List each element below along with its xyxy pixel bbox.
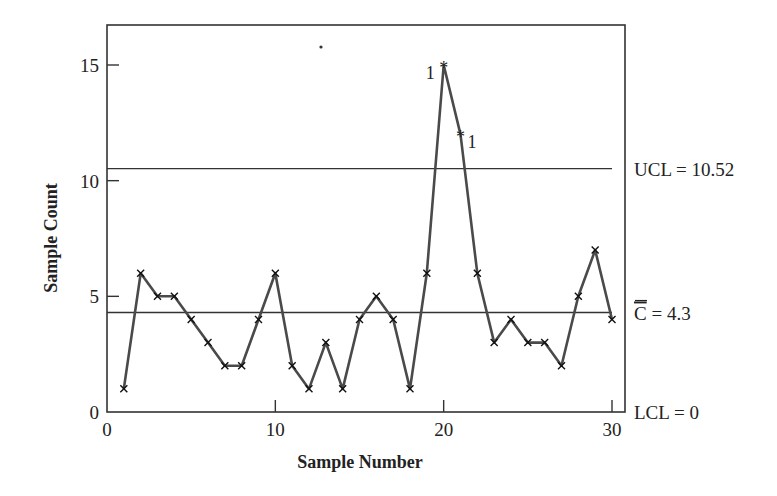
stray-dot [319, 45, 322, 48]
x-marker [373, 293, 380, 300]
labels: Sample Number Sample Count [41, 183, 423, 472]
out-of-control-marker: * [439, 58, 448, 78]
out-of-control-marker: * [456, 127, 465, 147]
ref-label-ucl: UCL = 10.52 [634, 159, 734, 180]
y-tick-label: 15 [80, 55, 99, 76]
reference-lines: UCL = 10.52C = 4.3LCL = 0 [107, 159, 734, 423]
control-chart: 0510150102030 UCL = 10.52C = 4.3LCL = 0 … [0, 0, 777, 496]
rule-violation-label: 1 [468, 132, 477, 152]
data-series [124, 65, 612, 389]
y-axis-title: Sample Count [41, 183, 61, 293]
ref-label-lcl: LCL = 0 [634, 402, 699, 423]
ref-label-cl: C = 4.3 [634, 303, 691, 324]
x-marker [508, 316, 515, 323]
y-tick-label: 0 [90, 402, 100, 423]
x-tick-label: 0 [102, 419, 112, 440]
y-tick-label: 5 [90, 286, 100, 307]
series-line [124, 65, 612, 389]
x-marker [188, 316, 195, 323]
plot-frame: 0510150102030 [80, 25, 625, 440]
x-tick-label: 30 [603, 419, 622, 440]
plot-border [107, 25, 625, 412]
x-tick-label: 20 [434, 419, 453, 440]
rule-violation-label: 1 [426, 63, 435, 83]
x-tick-label: 10 [266, 419, 285, 440]
y-tick-label: 10 [80, 171, 99, 192]
x-axis-title: Sample Number [297, 452, 423, 472]
x-marker [205, 339, 212, 346]
